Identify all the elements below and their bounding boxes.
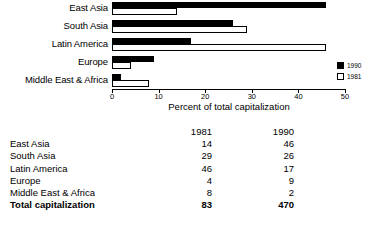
table-row: Europe49: [10, 175, 302, 187]
bar-group: [112, 2, 345, 15]
legend-swatch-1981: [337, 73, 344, 80]
table-header-1981: 1981: [140, 126, 220, 138]
category-label: Latin America: [0, 39, 108, 49]
bar-group: [112, 56, 345, 69]
plot-area: [112, 0, 345, 90]
chart-legend: 19901981: [337, 60, 374, 82]
table-cell-name: Middle East & Africa: [10, 187, 140, 199]
table-cell-1990: 2: [220, 187, 302, 199]
table-cell-1981: 14: [140, 138, 220, 150]
category-label: Europe: [0, 57, 108, 67]
x-axis-tick-label: 40: [294, 93, 302, 101]
table-cell-1990: 46: [220, 138, 302, 150]
category-label: Middle East & Africa: [0, 75, 108, 85]
table-cell-1981: 83: [140, 199, 220, 211]
x-axis-tick-label: 50: [341, 93, 349, 101]
table-cell-1981: 29: [140, 150, 220, 162]
table-cell-1981: 8: [140, 187, 220, 199]
x-axis-line: [112, 89, 346, 90]
table-header-row: 1981 1990: [10, 126, 302, 138]
table-cell-1990: 470: [220, 199, 302, 211]
table-cell-1981: 46: [140, 163, 220, 175]
table-row: Total capitalization83470: [10, 199, 302, 211]
x-axis-title: Percent of total capitalization: [112, 101, 346, 112]
table-cell-1990: 26: [220, 150, 302, 162]
data-table: 1981 1990 East Asia1446South Asia2926Lat…: [10, 126, 302, 211]
table-header-1990: 1990: [220, 126, 302, 138]
table-row: East Asia1446: [10, 138, 302, 150]
bar-1981-east-asia: [112, 8, 177, 15]
bar-chart: East AsiaSouth AsiaLatin AmericaEuropeMi…: [0, 0, 374, 113]
legend-item-1981[interactable]: 1981: [337, 71, 374, 82]
table-cell-1990: 17: [220, 163, 302, 175]
data-table-block: 1981 1990 East Asia1446South Asia2926Lat…: [0, 126, 374, 212]
category-axis-labels: East AsiaSouth AsiaLatin AmericaEuropeMi…: [0, 0, 108, 90]
table-header: 1981 1990: [10, 126, 302, 138]
x-axis-tick-label: 0: [110, 93, 114, 101]
category-label: South Asia: [0, 21, 108, 31]
bar-1981-south-asia: [112, 26, 247, 33]
table-cell-name: Europe: [10, 175, 140, 187]
bar-group: [112, 20, 345, 33]
table-row: Latin America4617: [10, 163, 302, 175]
table-cell-name: South Asia: [10, 150, 140, 162]
bar-1981-europe: [112, 62, 131, 69]
category-label: East Asia: [0, 3, 108, 13]
bar-group: [112, 74, 345, 87]
table-row: South Asia2926: [10, 150, 302, 162]
x-axis-tick-label: 30: [248, 93, 256, 101]
x-axis-tick-label: 10: [154, 93, 162, 101]
table-body: East Asia1446South Asia2926Latin America…: [10, 138, 302, 211]
table-cell-name: Latin America: [10, 163, 140, 175]
table-cell-1981: 4: [140, 175, 220, 187]
bar-group: [112, 38, 345, 51]
legend-label: 1990: [347, 62, 361, 69]
table-header-blank: [10, 126, 140, 138]
legend-item-1990[interactable]: 1990: [337, 60, 374, 71]
bar-1981-latin-america: [112, 44, 326, 51]
table-row: Middle East & Africa82: [10, 187, 302, 199]
table-cell-name: East Asia: [10, 138, 140, 150]
legend-swatch-1990: [337, 62, 344, 69]
table-cell-1990: 9: [220, 175, 302, 187]
bar-1981-middle-east-africa: [112, 80, 149, 87]
x-axis-tick-label: 20: [201, 93, 209, 101]
legend-label: 1981: [347, 73, 361, 80]
table-cell-name: Total capitalization: [10, 199, 140, 211]
